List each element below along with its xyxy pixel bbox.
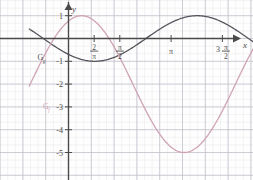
x-tick-text-2: π: [169, 47, 173, 56]
curve-label-sub-0: g: [43, 58, 46, 64]
x-axis-label: x: [242, 40, 247, 50]
x-tick-label-2: π: [169, 47, 173, 56]
function-graph-canvas: xy2ππ2π3π22π1-1-2-3-4-5GgGf: [0, 0, 253, 180]
y-tick-label-0: 1: [59, 12, 63, 21]
x-tick-numerator-1: π: [118, 43, 122, 52]
y-tick-label-2: -2: [56, 80, 63, 89]
x-tick-denominator-0: π: [92, 52, 96, 61]
graph-figure: xy2ππ2π3π22π1-1-2-3-4-5GgGf: [0, 0, 253, 180]
y-tick-label-3: -3: [56, 103, 63, 112]
y-tick-label-4: -4: [56, 126, 63, 135]
x-tick-numerator-0: 2: [92, 43, 96, 52]
x-tick-coef-3: 3: [216, 45, 220, 54]
y-axis-label: y: [71, 4, 76, 14]
x-tick-numerator-3: π: [224, 43, 228, 52]
x-tick-denominator-1: 2: [118, 52, 122, 61]
y-tick-label-1: -1: [56, 57, 63, 66]
x-tick-denominator-3: 2: [224, 52, 228, 61]
y-tick-label-5: -5: [56, 149, 63, 158]
